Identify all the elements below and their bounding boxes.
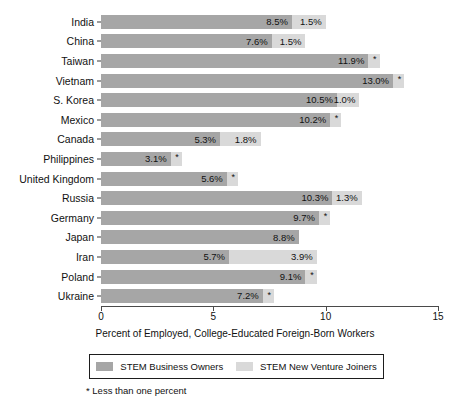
- stacked-bar: 5.3%1.8%: [101, 132, 261, 146]
- stacked-bar: 11.9%*: [101, 54, 380, 68]
- category-label: Iran: [76, 252, 94, 263]
- bar-row: Vietnam13.0%*: [101, 71, 438, 91]
- bar-value-label: 9.1%: [280, 272, 306, 282]
- bar-value-label: *: [267, 291, 274, 300]
- legend-swatch-icon-joiners: [236, 362, 253, 371]
- bar-segment-joiners: *: [368, 54, 379, 68]
- legend-label-owners: STEM Business Owners: [120, 362, 223, 372]
- bar-row: Poland9.1%*: [101, 267, 438, 287]
- x-axis-title: Percent of Employed, College-Educated Fo…: [0, 328, 470, 339]
- bar-segment-owners: 11.9%: [101, 54, 368, 68]
- bar-segment-joiners: *: [227, 172, 238, 186]
- x-axis-tick-label: 5: [211, 312, 217, 322]
- stacked-bar: 3.1%*: [101, 152, 182, 166]
- bar-value-label: 7.6%: [246, 37, 272, 47]
- stacked-bar: 7.6%1.5%: [101, 34, 305, 48]
- stacked-bar: 9.7%*: [101, 211, 330, 225]
- category-label: Japan: [65, 232, 94, 243]
- bar-row: Germany9.7%*: [101, 208, 438, 228]
- bar-segment-joiners: 1.8%: [220, 132, 260, 146]
- bar-value-label: 8.5%: [266, 17, 292, 27]
- bar-value-label: 9.7%: [293, 213, 319, 223]
- bar-segment-owners: 5.3%: [101, 132, 220, 146]
- category-label: Philippines: [43, 154, 94, 165]
- category-label: Vietnam: [56, 75, 94, 86]
- bar-segment-owners: 7.2%: [101, 289, 263, 303]
- bar-value-label: *: [335, 114, 342, 123]
- bar-value-label: 10.3%: [301, 193, 332, 203]
- bar-segment-joiners: 1.5%: [292, 15, 326, 29]
- bar-value-label: 1.5%: [280, 37, 306, 47]
- legend-swatch-icon-owners: [96, 362, 113, 371]
- bar-value-label: 5.6%: [201, 174, 227, 184]
- bar-row: Japan8.8%: [101, 228, 438, 248]
- category-label: Poland: [61, 271, 94, 282]
- category-label: Germany: [51, 213, 94, 224]
- legend-label-joiners: STEM New Venture Joiners: [260, 362, 377, 372]
- bar-segment-joiners: 1.5%: [272, 34, 306, 48]
- bar-value-label: 8.8%: [273, 233, 299, 243]
- bar-value-label: *: [232, 173, 239, 182]
- category-label: United Kingdom: [19, 173, 94, 184]
- bar-segment-joiners: *: [330, 113, 341, 127]
- category-label: Mexico: [61, 115, 94, 126]
- plot-area: India8.5%1.5%China7.6%1.5%Taiwan11.9%*Vi…: [101, 12, 438, 306]
- stacked-bar: 5.7%3.9%: [101, 250, 317, 264]
- bar-segment-owners: 10.5%: [101, 93, 337, 107]
- bar-value-label: 13.0%: [362, 76, 393, 86]
- bar-value-label: 11.9%: [338, 56, 368, 66]
- bar-segment-owners: 8.8%: [101, 230, 299, 244]
- bar-value-label: *: [175, 153, 182, 162]
- bar-row: Mexico10.2%*: [101, 110, 438, 130]
- bar-row: Russia10.3%1.3%: [101, 188, 438, 208]
- bar-value-label: 5.3%: [194, 135, 220, 145]
- category-label: Canada: [57, 134, 94, 145]
- legend-item-stem-business-owners: STEM Business Owners: [96, 362, 223, 372]
- bar-row: Taiwan11.9%*: [101, 51, 438, 71]
- bar-value-label: *: [324, 212, 331, 221]
- chart-footnote: * Less than one percent: [86, 385, 186, 396]
- bar-segment-joiners: 1.0%: [337, 93, 359, 107]
- bar-segment-owners: 7.6%: [101, 34, 272, 48]
- stacked-bar: 7.2%*: [101, 289, 274, 303]
- bar-segment-joiners: 1.3%: [332, 191, 361, 205]
- stacked-bar: 10.2%*: [101, 113, 341, 127]
- chart-legend: STEM Business Owners STEM New Venture Jo…: [89, 354, 384, 379]
- category-label: India: [71, 17, 94, 28]
- stacked-bar: 13.0%*: [101, 74, 404, 88]
- bar-segment-owners: 8.5%: [101, 15, 292, 29]
- bar-row: Ukraine7.2%*: [101, 286, 438, 306]
- bar-segment-owners: 5.7%: [101, 250, 229, 264]
- stacked-bar: 8.8%: [101, 230, 299, 244]
- category-label: Ukraine: [58, 291, 94, 302]
- x-axis-tick-label: 15: [432, 312, 443, 322]
- bar-segment-owners: 9.7%: [101, 211, 319, 225]
- category-label: Taiwan: [61, 56, 94, 67]
- bar-row: S. Korea10.5%1.0%: [101, 90, 438, 110]
- stacked-bar-chart: India8.5%1.5%China7.6%1.5%Taiwan11.9%*Vi…: [0, 0, 470, 408]
- x-axis-tick-label: 10: [320, 312, 331, 322]
- bar-segment-joiners: *: [171, 152, 182, 166]
- bar-segment-owners: 10.3%: [101, 191, 332, 205]
- bar-row: Iran5.7%3.9%: [101, 247, 438, 267]
- stacked-bar: 8.5%1.5%: [101, 15, 326, 29]
- bar-segment-owners: 9.1%: [101, 270, 305, 284]
- bar-value-label: *: [373, 55, 380, 64]
- bar-value-label: 3.9%: [291, 252, 317, 262]
- bar-row: Philippines3.1%*: [101, 149, 438, 169]
- category-label: Russia: [62, 193, 94, 204]
- x-axis-line: [101, 306, 438, 307]
- bar-row: India8.5%1.5%: [101, 12, 438, 32]
- bar-segment-owners: 13.0%: [101, 74, 393, 88]
- bar-row: Canada5.3%1.8%: [101, 130, 438, 150]
- bar-value-label: 10.2%: [299, 115, 330, 125]
- bar-value-label: 5.7%: [203, 252, 229, 262]
- category-label: S. Korea: [53, 95, 94, 106]
- legend-item-stem-new-venture-joiners: STEM New Venture Joiners: [236, 362, 377, 372]
- bar-segment-owners: 10.2%: [101, 113, 330, 127]
- bar-value-label: 7.2%: [237, 291, 263, 301]
- bar-segment-owners: 3.1%: [101, 152, 171, 166]
- stacked-bar: 9.1%*: [101, 270, 317, 284]
- stacked-bar: 10.5%1.0%: [101, 93, 359, 107]
- bar-value-label: 1.5%: [300, 17, 326, 27]
